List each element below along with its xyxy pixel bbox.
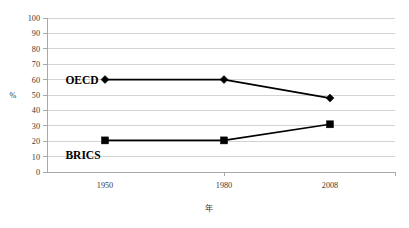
y-tick-label-40: 40 bbox=[32, 106, 40, 115]
y-tick-label-50: 50 bbox=[32, 91, 40, 100]
gridlines-group bbox=[47, 18, 395, 157]
brics-marker-2008 bbox=[327, 121, 334, 128]
chart-canvas: 100 90 80 70 60 50 40 30 20 10 0 1950 19… bbox=[0, 0, 409, 228]
y-tick-label-70: 70 bbox=[32, 60, 40, 69]
y-axis-title: % bbox=[10, 91, 17, 100]
x-axis-title: 年 bbox=[205, 203, 213, 213]
x-tick-labels-group: 1950 1980 2008 bbox=[97, 181, 338, 190]
y-tick-label-60: 60 bbox=[32, 76, 40, 85]
x-tick-marks-group bbox=[224, 172, 395, 176]
oecd-series-label: OECD bbox=[65, 74, 98, 86]
y-tick-label-100: 100 bbox=[28, 14, 40, 23]
y-tick-label-10: 10 bbox=[32, 153, 40, 162]
y-tick-label-30: 30 bbox=[32, 122, 40, 131]
x-tick-label-1980: 1980 bbox=[216, 181, 232, 190]
y-tick-label-0: 0 bbox=[36, 168, 40, 177]
y-tick-label-80: 80 bbox=[32, 45, 40, 54]
oecd-marker-1980 bbox=[220, 76, 228, 84]
x-tick-label-2008: 2008 bbox=[322, 181, 338, 190]
y-tick-label-90: 90 bbox=[32, 29, 40, 38]
line-chart: 100 90 80 70 60 50 40 30 20 10 0 1950 19… bbox=[0, 0, 409, 228]
y-tick-label-20: 20 bbox=[32, 137, 40, 146]
brics-marker-1980 bbox=[221, 137, 228, 144]
brics-marker-1950 bbox=[102, 137, 109, 144]
x-tick-label-1950: 1950 bbox=[97, 181, 113, 190]
y-tick-labels-group: 100 90 80 70 60 50 40 30 20 10 0 bbox=[28, 14, 40, 177]
series-brics bbox=[102, 121, 334, 144]
brics-line bbox=[105, 124, 330, 140]
brics-series-label: BRICS bbox=[65, 149, 100, 161]
y-tick-marks-group bbox=[43, 18, 47, 172]
oecd-marker-1950 bbox=[101, 76, 109, 84]
